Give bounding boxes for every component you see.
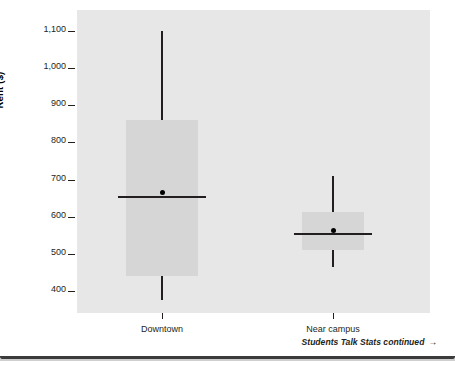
median-line: [294, 233, 372, 235]
footer-note: Students Talk Stats continued→: [302, 337, 437, 347]
footer-divider-shadow: [0, 359, 455, 361]
y-axis-title: Rent ($): [0, 30, 5, 150]
boxplot-near-campus: [0, 0, 455, 369]
whisker-lower: [332, 250, 333, 267]
boxplot-figure: 4005006007008009001,0001,100DowntownNear…: [0, 0, 455, 369]
arrow-right-icon: →: [428, 337, 437, 347]
footer-note-text: Students Talk Stats continued: [302, 337, 425, 347]
whisker-upper: [332, 176, 333, 212]
page-footer: Students Talk Stats continued→: [0, 335, 455, 369]
mean-marker: [331, 228, 336, 233]
